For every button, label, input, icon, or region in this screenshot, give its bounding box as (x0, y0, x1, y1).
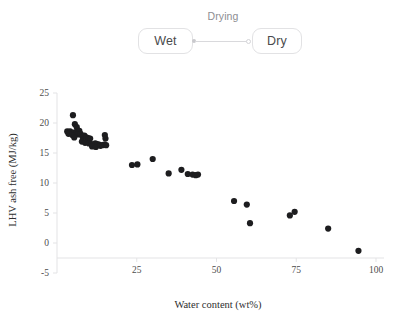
y-tick-label: 5 (44, 208, 49, 218)
x-tick-label: 50 (212, 265, 222, 275)
data-point (325, 226, 331, 232)
data-point (231, 198, 237, 204)
y-tick-label: 10 (40, 178, 50, 188)
drying-edge-label: Drying (193, 10, 253, 22)
x-tick-label: 75 (292, 265, 302, 275)
drying-edge[interactable] (190, 34, 256, 50)
data-point (166, 170, 172, 176)
y-tick-label: 15 (40, 148, 50, 158)
dry-node[interactable]: Dry (252, 28, 302, 54)
y-axis-title: LHV ash free (MJ/kg) (7, 133, 19, 227)
y-tick-label: 20 (40, 118, 50, 128)
x-tick-label: 25 (132, 265, 142, 275)
data-point (244, 202, 250, 208)
data-point (195, 172, 201, 178)
x-axis-title: Water content (wt%) (174, 299, 262, 311)
data-point (134, 161, 140, 167)
data-point (71, 134, 77, 140)
data-point (129, 162, 135, 168)
drying-flow-diagram: Wet Drying Dry (0, 0, 399, 70)
wet-node-label: Wet (154, 34, 177, 48)
scatter-chart: 2520151050-5 255075100 Water content (wt… (0, 70, 399, 317)
chart-canvas: 2520151050-5 255075100 Water content (wt… (0, 70, 399, 317)
y-tick-label: 25 (40, 88, 50, 98)
dry-node-label: Dry (267, 34, 287, 48)
x-tick-label: 100 (369, 265, 384, 275)
x-axis: 255075100 (57, 258, 384, 275)
edge-target-ring-icon (246, 39, 251, 44)
data-point (292, 209, 298, 215)
data-point (103, 142, 109, 148)
edge-line (195, 41, 249, 42)
data-point (70, 112, 76, 118)
data-point (355, 248, 361, 254)
data-point (247, 220, 253, 226)
y-tick-label: 0 (44, 238, 49, 248)
data-point (102, 136, 108, 142)
data-point (150, 156, 156, 162)
wet-node[interactable]: Wet (138, 28, 193, 54)
y-axis: 2520151050-5 (40, 88, 58, 278)
data-point (178, 167, 184, 173)
y-tick-label: -5 (41, 268, 49, 278)
data-points-layer (64, 112, 361, 254)
